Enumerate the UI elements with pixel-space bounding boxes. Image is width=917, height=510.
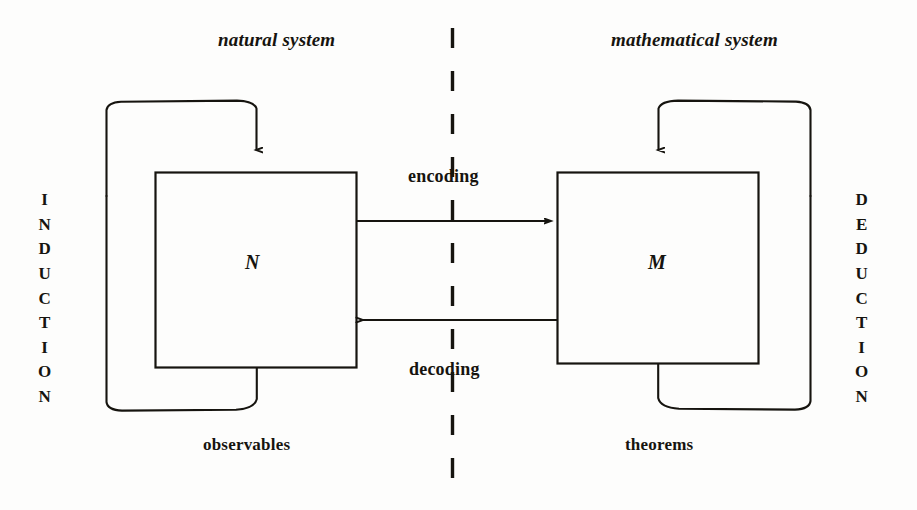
vertical-letter: T — [39, 311, 50, 336]
encoding-label: encoding — [408, 167, 479, 185]
vertical-letter: D — [855, 188, 867, 213]
vertical-letter: C — [38, 287, 50, 312]
vertical-letter: U — [38, 262, 50, 287]
vertical-letter: U — [855, 262, 867, 287]
natural-system-letter: N — [245, 252, 259, 272]
figure-canvas: natural system mathematical system encod… — [0, 0, 917, 510]
vertical-letter: E — [856, 213, 867, 238]
vertical-letter: I — [858, 336, 865, 361]
mathematical-system-letter: M — [648, 252, 666, 272]
vertical-letter: D — [38, 237, 50, 262]
vertical-letter: C — [855, 287, 867, 312]
deduction-label: DEDUCTION — [855, 188, 868, 410]
vertical-letter: T — [856, 311, 867, 336]
induction-label: INDUCTION — [38, 188, 51, 410]
vertical-letter: O — [855, 360, 868, 385]
vertical-letter: I — [41, 188, 48, 213]
vertical-letter: O — [38, 360, 51, 385]
observables-label: observables — [203, 436, 290, 453]
vertical-letter: N — [38, 385, 50, 410]
mathematical-system-title: mathematical system — [611, 30, 778, 49]
vertical-letter: N — [855, 385, 867, 410]
natural-system-title: natural system — [218, 30, 335, 49]
vertical-letter: N — [38, 213, 50, 238]
decoding-label: decoding — [409, 360, 480, 378]
vertical-letter: I — [41, 336, 48, 361]
theorems-label: theorems — [625, 436, 693, 453]
vertical-letter: D — [855, 237, 867, 262]
diagram-drawing — [0, 0, 917, 510]
